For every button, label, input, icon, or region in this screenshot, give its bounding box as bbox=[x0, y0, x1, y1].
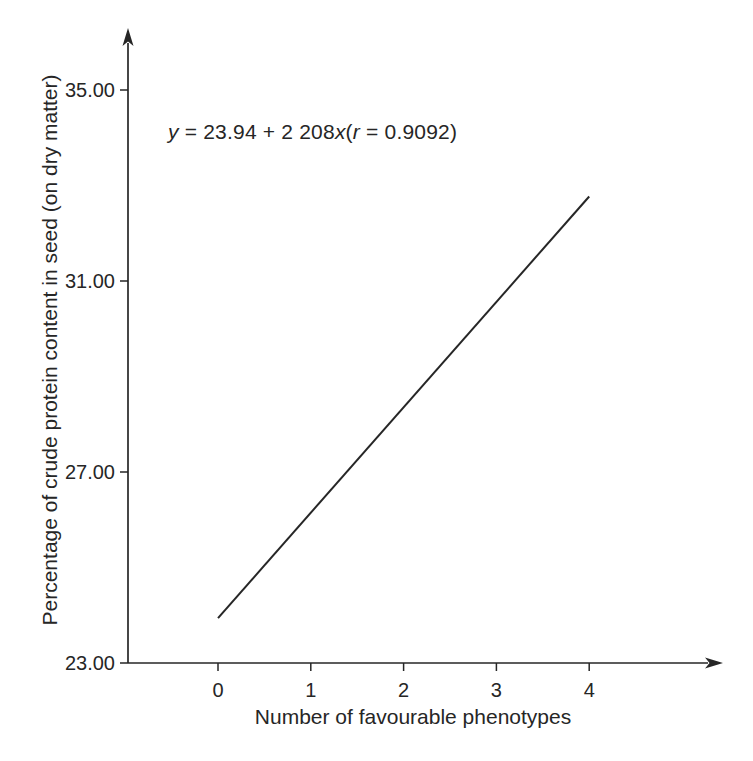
equation-text: ( bbox=[346, 120, 353, 143]
y-tick-label: 23.00 bbox=[65, 652, 115, 674]
equation-variable: x bbox=[335, 120, 346, 143]
equation-variable: r bbox=[353, 120, 360, 143]
plot-canvas: 35.0031.0027.0023.0001234 bbox=[0, 0, 753, 761]
y-axis-title: Percentage of crude protein content in s… bbox=[38, 75, 62, 626]
x-tick-label: 3 bbox=[491, 679, 502, 701]
regression-equation: y = 23.94 + 2 208x(r = 0.9092) bbox=[168, 120, 457, 144]
equation-text: = 0.9092) bbox=[360, 120, 457, 143]
y-tick-label: 35.00 bbox=[65, 79, 115, 101]
x-tick-label: 0 bbox=[212, 679, 223, 701]
regression-line bbox=[218, 196, 589, 618]
y-tick-label: 31.00 bbox=[65, 270, 115, 292]
x-tick-label: 1 bbox=[305, 679, 316, 701]
x-tick-label: 4 bbox=[584, 679, 595, 701]
regression-figure: 35.0031.0027.0023.0001234 y = 23.94 + 2 … bbox=[0, 0, 753, 761]
equation-text: = 23.94 + 2 208 bbox=[179, 120, 335, 143]
x-tick-label: 2 bbox=[398, 679, 409, 701]
y-tick-label: 27.00 bbox=[65, 461, 115, 483]
x-axis-title: Number of favourable phenotypes bbox=[255, 705, 571, 729]
equation-variable: y bbox=[168, 120, 179, 143]
